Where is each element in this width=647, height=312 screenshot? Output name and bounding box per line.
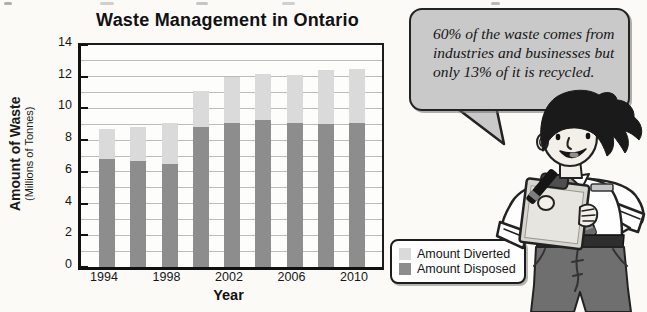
legend-swatch <box>399 248 411 260</box>
bar-segment-amount-diverted <box>287 75 303 123</box>
y-axis-tick-label: 6 <box>46 162 72 176</box>
y-axis-tick <box>81 266 88 268</box>
bar-1994 <box>99 129 115 267</box>
cropped-text-fragment <box>196 2 208 5</box>
y-axis-tick-label: 8 <box>46 130 72 144</box>
gridline <box>81 60 382 61</box>
y-axis-title-sub: (Millions of Tonnes) <box>24 70 36 238</box>
bar-segment-amount-diverted <box>349 69 365 123</box>
x-axis-tick-label: 1998 <box>145 270 189 284</box>
bar-segment-amount-disposed <box>130 161 146 267</box>
y-axis-tick-label: 10 <box>46 98 72 112</box>
cropped-text-fragment <box>4 2 12 5</box>
bar-segment-amount-disposed <box>224 123 240 267</box>
bar-2004 <box>255 74 271 267</box>
x-axis-tick-label: 2010 <box>332 270 376 284</box>
cropped-text-fragment <box>491 2 500 5</box>
legend-swatch <box>399 263 411 275</box>
x-axis-tick-label: 2006 <box>270 270 314 284</box>
y-axis-tick-label: 2 <box>46 225 72 239</box>
bar-segment-amount-diverted <box>99 129 115 159</box>
bar-segment-amount-disposed <box>193 127 209 267</box>
man-with-clipboard-illustration <box>490 85 647 312</box>
speech-bubble-text: 60% of the waste comes from industries a… <box>433 24 617 81</box>
bar-2006 <box>287 75 303 267</box>
bar-segment-amount-diverted <box>224 77 240 123</box>
cropped-text-fragment <box>100 2 114 5</box>
bar-segment-amount-disposed <box>318 124 334 267</box>
bar-1996 <box>130 127 146 267</box>
x-axis-tick-label: 2002 <box>207 270 251 284</box>
y-axis-tick <box>81 107 88 109</box>
y-axis-title-main: Amount of Waste <box>8 70 23 238</box>
bar-segment-amount-disposed <box>99 159 115 267</box>
x-axis-title: Year <box>78 287 379 303</box>
y-axis-tick <box>81 76 88 78</box>
bar-2008 <box>318 70 334 267</box>
x-axis-tick-label: 1994 <box>82 270 126 284</box>
bar-segment-amount-disposed <box>162 164 178 267</box>
cropped-text-fragment <box>282 2 295 5</box>
y-axis-tick-label: 12 <box>46 67 72 81</box>
bar-segment-amount-diverted <box>193 91 209 127</box>
bar-2000 <box>193 91 209 267</box>
bar-segment-amount-diverted <box>162 123 178 164</box>
page: Waste Management in Ontario Amount of Wa… <box>0 0 647 312</box>
y-axis-tick <box>81 44 88 46</box>
bar-segment-amount-disposed <box>349 123 365 267</box>
y-axis-tick <box>81 234 88 236</box>
bar-2002 <box>224 77 240 267</box>
bar-segment-amount-disposed <box>287 123 303 267</box>
bar-2010 <box>349 69 365 267</box>
bar-segment-amount-diverted <box>130 127 146 160</box>
y-axis-tick <box>81 203 88 205</box>
bar-segment-amount-diverted <box>318 70 334 124</box>
y-axis-title: Amount of Waste (Millions of Tonnes) <box>8 70 35 238</box>
y-axis-tick <box>81 139 88 141</box>
chart-title: Waste Management in Ontario <box>60 10 395 31</box>
y-axis-tick-label: 14 <box>46 35 72 49</box>
y-axis-tick-label: 4 <box>46 194 72 208</box>
bar-segment-amount-diverted <box>255 74 271 120</box>
plot-area <box>78 43 384 270</box>
y-axis-tick <box>81 171 88 173</box>
bar-1998 <box>162 123 178 267</box>
bar-segment-amount-disposed <box>255 120 271 267</box>
y-axis-tick-label: 0 <box>46 257 72 271</box>
